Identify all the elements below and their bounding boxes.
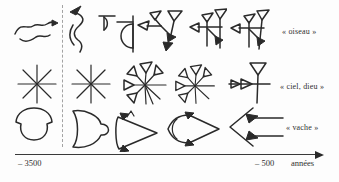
cuneiform-evolution-figure: « oiseau » [0,0,339,182]
cow-head-cuneiform-icon [165,109,221,149]
star-rotated-icon [71,63,111,105]
star-pictograph-icon [17,63,57,105]
star-wedge-cuneiform-icon [174,63,218,107]
bird-pictograph-icon [13,13,59,47]
cow-head-early-cuneiform-icon [112,108,160,152]
star-wedge-cuneiform-icon [122,60,170,108]
bird-cuneiform-icon [189,8,227,54]
row-label-vache: « vache » [286,123,318,132]
bird-early-cuneiform-icon [98,10,138,54]
timeline-axis [15,154,316,155]
bird-rotated-icon [66,5,98,53]
cow-head-pictograph-icon [13,107,55,143]
rotation-divider-line [62,5,63,147]
cow-head-rotated-icon [66,109,114,151]
timeline-arrowhead-icon [315,151,324,159]
dingir-cuneiform-icon [228,62,272,106]
bird-cuneiform-icon [230,8,270,54]
timeline-end-label: – 500 [255,158,274,168]
row-label-oiseau: « oiseau » [282,27,316,36]
row-label-ciel-dieu: « ciel, dieu » [280,82,324,91]
timeline-start-label: – 3500 [18,158,41,168]
timeline-unit-label: années [291,158,314,168]
bird-cuneiform-icon [137,9,187,53]
cow-head-late-cuneiform-icon [227,106,285,148]
